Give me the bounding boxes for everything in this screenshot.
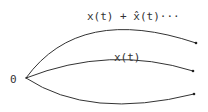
upper-endpoint-dot	[195, 42, 198, 45]
upper-trajectory-curve	[26, 30, 196, 78]
origin-label: 0	[10, 74, 17, 85]
middle-endpoint-dot	[192, 70, 195, 73]
origin-dot	[25, 77, 27, 79]
middle-curve-label: x(t)	[114, 52, 141, 63]
lower-endpoint-dot	[193, 93, 196, 96]
lower-trajectory-curve	[26, 78, 194, 104]
trajectory-diagram: 0 x(t) + x̂(t)··· x(t)	[0, 0, 208, 112]
middle-trajectory-curve	[26, 60, 193, 78]
upper-curve-label: x(t) + x̂(t)···	[87, 11, 180, 22]
